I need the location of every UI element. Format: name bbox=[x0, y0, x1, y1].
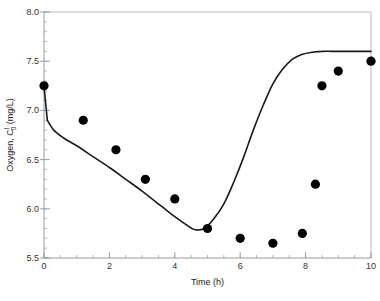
y-axis-title: Oxygen, Cl0 (mg/L) bbox=[3, 98, 17, 172]
y-axis-ticks: 5.56.06.57.07.58.0 bbox=[26, 7, 50, 263]
x-tick-label: 10 bbox=[366, 261, 376, 271]
data-point bbox=[268, 239, 277, 248]
data-point bbox=[39, 81, 48, 90]
oxygen-time-chart: 5.56.06.57.07.58.0 0246810 Time (h) Oxyg… bbox=[0, 0, 380, 301]
x-tick-label: 0 bbox=[41, 261, 46, 271]
y-tick-label: 5.5 bbox=[26, 253, 39, 263]
x-axis-title: Time (h) bbox=[191, 277, 224, 287]
data-point bbox=[170, 194, 179, 203]
y-tick-label: 6.5 bbox=[26, 155, 39, 165]
data-point bbox=[236, 234, 245, 243]
minor-ticks bbox=[44, 12, 371, 258]
data-point bbox=[317, 81, 326, 90]
data-point bbox=[298, 229, 307, 238]
measured-points bbox=[39, 57, 375, 248]
y-tick-label: 7.5 bbox=[26, 56, 39, 66]
data-point bbox=[311, 180, 320, 189]
y-tick-label: 7.0 bbox=[26, 105, 39, 115]
plot-frame bbox=[44, 12, 371, 258]
y-tick-label: 8.0 bbox=[26, 7, 39, 17]
x-tick-label: 2 bbox=[107, 261, 112, 271]
x-tick-label: 8 bbox=[303, 261, 308, 271]
data-point bbox=[366, 57, 375, 66]
data-point bbox=[334, 66, 343, 75]
y-tick-label: 6.0 bbox=[26, 204, 39, 214]
model-curve bbox=[44, 51, 371, 230]
x-axis-ticks: 0246810 bbox=[41, 252, 376, 271]
data-point bbox=[79, 116, 88, 125]
x-tick-label: 4 bbox=[172, 261, 177, 271]
data-point bbox=[111, 145, 120, 154]
data-point bbox=[141, 175, 150, 184]
x-tick-label: 6 bbox=[238, 261, 243, 271]
data-point bbox=[203, 224, 212, 233]
